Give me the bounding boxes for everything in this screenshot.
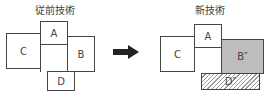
right-box-b-double-prime: B″ bbox=[221, 39, 264, 74]
left-box-a: A bbox=[40, 21, 68, 45]
left-box-c: C bbox=[6, 33, 41, 69]
right-box-c: C bbox=[160, 36, 195, 72]
left-box-d: D bbox=[47, 71, 75, 91]
right-title: 新技術 bbox=[195, 2, 225, 17]
left-connector bbox=[40, 44, 68, 72]
right-box-d-double-prime: D″ bbox=[201, 73, 260, 90]
left-title: 従前技術 bbox=[35, 2, 75, 17]
right-box-a: A bbox=[194, 24, 222, 48]
right-arrow-icon bbox=[113, 45, 139, 59]
left-box-b: B bbox=[67, 36, 95, 72]
right-connector bbox=[194, 47, 222, 72]
